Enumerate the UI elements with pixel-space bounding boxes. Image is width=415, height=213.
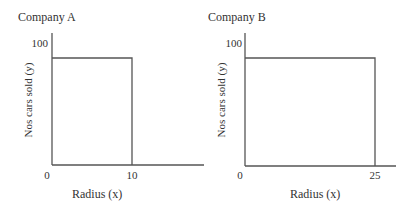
plot-area xyxy=(0,0,415,213)
sales-curve xyxy=(245,58,375,166)
x-tick-25: 25 xyxy=(360,169,390,181)
x-axis-label: Radius (x) xyxy=(290,187,340,202)
chart-company-b: Company B 100 Nos cars sold (y) 0 25 Rad… xyxy=(0,0,415,213)
x-tick-0: 0 xyxy=(225,169,255,181)
